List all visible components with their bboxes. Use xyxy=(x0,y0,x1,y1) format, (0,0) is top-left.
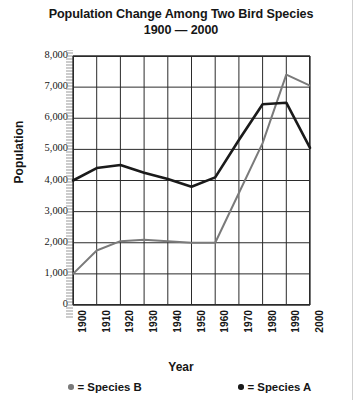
legend-item-species-a: = Species A xyxy=(238,381,311,393)
y-tick-label: 4,000 xyxy=(22,174,68,185)
x-tick-label: 1920 xyxy=(124,310,135,350)
chart-legend: = Species B = Species A xyxy=(0,381,362,399)
x-tick-label: 1950 xyxy=(196,310,207,350)
y-tick-label: 7,000 xyxy=(22,80,68,91)
x-tick-label: 1960 xyxy=(219,310,230,350)
y-tick-label: 1,000 xyxy=(22,267,68,278)
legend-marker-species-b-icon xyxy=(68,384,74,390)
x-tick-label: 1910 xyxy=(101,310,112,350)
x-tick-label: 1980 xyxy=(267,310,278,350)
x-tick-label: 2000 xyxy=(314,310,325,350)
legend-label-species-b: = Species B xyxy=(78,381,142,393)
legend-item-species-b: = Species B xyxy=(68,381,142,393)
y-tick-label: 6,000 xyxy=(22,111,68,122)
x-tick-label: 1990 xyxy=(290,310,301,350)
chart-figure: Population Change Among Two Bird Species… xyxy=(0,0,362,400)
x-tick-label: 1900 xyxy=(77,310,88,350)
x-axis-tick-labels: 1900191019201930194019501960197019801990… xyxy=(73,308,310,354)
x-tick-label: 1970 xyxy=(243,310,254,350)
ruler-decoration xyxy=(66,50,73,318)
plot-area xyxy=(73,56,310,305)
y-tick-label: 2,000 xyxy=(22,236,68,247)
y-tick-label: 3,000 xyxy=(22,205,68,216)
y-tick-label: 5,000 xyxy=(22,142,68,153)
x-tick-label: 1930 xyxy=(148,310,159,350)
x-tick-label: 1940 xyxy=(172,310,183,350)
y-tick-label: 8,000 xyxy=(22,49,68,60)
page-edge-divider xyxy=(352,0,353,400)
legend-marker-species-a-icon xyxy=(238,384,244,390)
y-axis-tick-labels: 8,0007,0006,0005,0004,0003,0002,0001,000… xyxy=(18,0,68,400)
legend-label-species-a: = Species A xyxy=(248,381,312,393)
x-axis-label: Year xyxy=(0,360,362,374)
y-tick-label: 0 xyxy=(22,298,68,309)
